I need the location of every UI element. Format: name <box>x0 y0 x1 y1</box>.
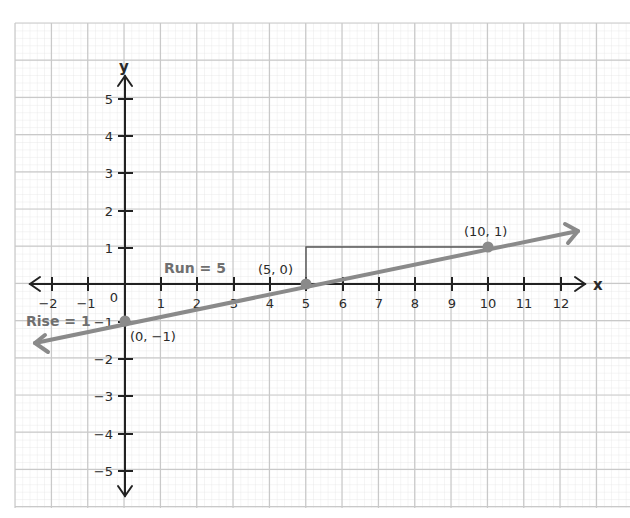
coordinate-plane-figure: y x −2 −1 0 1 2 3 4 5 6 7 8 9 10 11 12 5… <box>0 0 630 518</box>
point-5-0 <box>301 279 312 290</box>
y-tick-label: 3 <box>105 166 113 181</box>
x-tick-label: 5 <box>302 296 310 311</box>
x-axis-label: x <box>593 276 603 294</box>
x-tick-label: −2 <box>38 296 57 311</box>
point-label-0-neg1: (0, −1) <box>130 329 176 344</box>
x-tick-label: 12 <box>553 296 570 311</box>
y-tick-label: 5 <box>105 92 113 107</box>
x-tick-label: 10 <box>480 296 497 311</box>
y-tick-label: 4 <box>105 129 113 144</box>
x-tick-label: 11 <box>516 296 533 311</box>
point-label-10-1: (10, 1) <box>464 224 507 239</box>
rise-annotation: Rise = 1 <box>26 313 91 329</box>
point-10-1 <box>483 242 494 253</box>
y-tick-label: −2 <box>94 352 113 367</box>
run-annotation: Run = 5 <box>164 260 226 276</box>
y-tick-label: −4 <box>94 427 113 442</box>
x-tick-label: 7 <box>375 296 383 311</box>
x-tick-label: 1 <box>157 296 165 311</box>
x-tick-label: 9 <box>448 296 456 311</box>
x-tick-label: −1 <box>76 296 95 311</box>
y-tick-label: −5 <box>94 464 113 479</box>
y-tick-label: 2 <box>105 204 113 219</box>
point-0-neg1 <box>120 316 131 327</box>
origin-label: 0 <box>110 290 118 305</box>
graph-svg: y x −2 −1 0 1 2 3 4 5 6 7 8 9 10 11 12 5… <box>0 0 630 518</box>
x-tick-label: 6 <box>339 296 347 311</box>
y-tick-label: −3 <box>94 389 113 404</box>
y-axis-label: y <box>119 58 129 76</box>
x-tick-label: 8 <box>411 296 419 311</box>
x-tick-label: 4 <box>266 296 274 311</box>
point-label-5-0: (5, 0) <box>258 262 293 277</box>
y-tick-label: 1 <box>105 241 113 256</box>
